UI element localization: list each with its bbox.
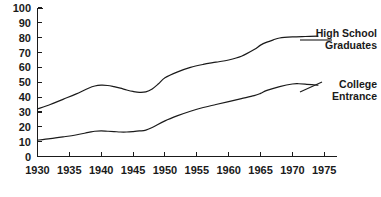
y-tick-label: 70 [19, 47, 31, 59]
y-tick-label: 40 [19, 91, 31, 103]
x-tick-label: 1950 [153, 164, 177, 176]
series-label-college-entrance-line2: Entrance [332, 90, 377, 102]
chart-canvas: 0102030405060708090100 19301935194019451… [0, 0, 381, 197]
y-tick-label: 90 [19, 17, 31, 29]
series-line-high-school-graduates [38, 36, 318, 109]
y-tick-label: 60 [19, 61, 31, 73]
y-tick-group [38, 8, 43, 157]
x-tick-label: 1970 [280, 164, 304, 176]
x-tick-label: 1975 [312, 164, 336, 176]
x-tick-label: 1965 [248, 164, 272, 176]
x-tick-label: 1935 [57, 164, 81, 176]
line-chart: 0102030405060708090100 19301935194019451… [0, 0, 381, 197]
x-tick-group [38, 152, 325, 157]
x-tick-label: 1945 [121, 164, 145, 176]
x-tick-label-group: 1930193519401945195019551960196519701975 [25, 164, 336, 176]
x-tick-label: 1955 [185, 164, 209, 176]
y-tick-label: 100 [13, 2, 31, 14]
x-tick-label: 1930 [25, 164, 49, 176]
y-tick-label: 30 [19, 106, 31, 118]
y-tick-label: 20 [19, 121, 31, 133]
x-tick-label: 1940 [89, 164, 113, 176]
series-label-high-school-graduates-line2: Graduates [325, 39, 377, 51]
y-tick-label: 10 [19, 136, 31, 148]
x-tick-label: 1960 [216, 164, 240, 176]
y-tick-label: 0 [25, 151, 31, 163]
series-label-college-entrance-line1: College [339, 78, 377, 90]
y-tick-label: 80 [19, 32, 31, 44]
y-tick-label-group: 0102030405060708090100 [13, 2, 31, 163]
series-label-high-school-graduates-line1: High School [316, 27, 377, 39]
y-tick-label: 50 [19, 76, 31, 88]
